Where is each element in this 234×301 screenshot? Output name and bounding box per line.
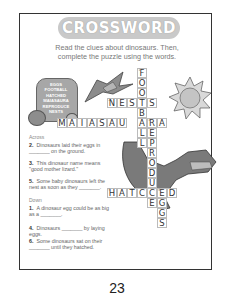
grid-cell[interactable]: U [147, 178, 157, 188]
grid-cell[interactable]: S [157, 218, 167, 228]
grid-cell[interactable]: E [147, 198, 157, 208]
grid-cell[interactable]: S [127, 98, 137, 108]
word-bank-item: MAIASAURA [38, 98, 74, 103]
grid-cell[interactable]: O [137, 88, 147, 98]
grid-cell[interactable]: R [147, 148, 157, 158]
grid-cell[interactable]: G [157, 208, 167, 218]
grid-cell[interactable]: 3M [57, 118, 67, 128]
clue-across-5: 5.Some baby dinosaurs left the nest as s… [29, 178, 113, 191]
grid-cell[interactable]: O [147, 158, 157, 168]
grid-cell[interactable]: 6E [157, 188, 167, 198]
grid-cell[interactable]: C [137, 188, 147, 198]
across-heading: Across [29, 134, 44, 140]
grid-cell[interactable]: A [137, 118, 147, 128]
grid-cell[interactable]: E [147, 128, 157, 138]
grid-cell[interactable]: L [137, 138, 147, 148]
word-bank-item: NESTS [38, 109, 74, 114]
grid-cell[interactable]: G [157, 198, 167, 208]
grid-cell[interactable]: O [137, 78, 147, 88]
grid-cell[interactable]: S [147, 98, 157, 108]
grid-cell[interactable]: 2N [107, 98, 117, 108]
tyrannosaurus-icon [118, 140, 218, 212]
grid-cell[interactable]: A [87, 118, 97, 128]
clue-across-2: 2.Dinosaurs laid their eggs in _______ o… [29, 142, 113, 155]
sun-icon [168, 76, 212, 120]
clue-across-3: 3.This dinosaur name means "good mother … [29, 160, 113, 173]
grid-cell[interactable]: C [147, 188, 157, 198]
grid-cell[interactable]: A [107, 118, 117, 128]
grid-cell[interactable]: 4R [147, 118, 157, 128]
grid-cell[interactable]: P [147, 138, 157, 148]
page-title: CROSSWORD [62, 19, 176, 37]
grid-cell[interactable]: A [157, 118, 167, 128]
clue-down-1: 1.A dinosaur egg could be as big as a __… [29, 205, 113, 218]
grid-cell[interactable]: D [167, 188, 177, 198]
grid-cell[interactable]: I [77, 118, 87, 128]
grid-cell[interactable]: L [137, 128, 147, 138]
grid-cell[interactable]: T [127, 188, 137, 198]
grid-cell[interactable]: 1F [137, 68, 147, 78]
page-number: 23 [0, 280, 234, 296]
title-banner: CROSSWORD [58, 17, 180, 39]
grid-cell[interactable]: D [147, 168, 157, 178]
grid-cell[interactable]: U [117, 118, 127, 128]
grid-cell[interactable]: S [97, 118, 107, 128]
instructions-line-2: complete the puzzle using the words. [20, 52, 214, 61]
grid-cell[interactable]: E [117, 98, 127, 108]
clue-down-4: 4.Dinosaurs _______ by laying eggs. [29, 225, 113, 238]
grid-cell[interactable]: A [117, 188, 127, 198]
grid-cell[interactable]: T [137, 98, 147, 108]
grid-cell[interactable]: A [67, 118, 77, 128]
instructions-line-1: Read the clues about dinosaurs. Then, [20, 43, 214, 52]
grid-cell[interactable]: B [137, 108, 147, 118]
down-heading: Down [29, 197, 42, 203]
word-bank: EGGS FOOTBALL HATCHED MAIASAURA REPRODUC… [38, 82, 74, 114]
clue-down-6: 6.Some dinosaurs sat on their _______ un… [29, 238, 113, 251]
